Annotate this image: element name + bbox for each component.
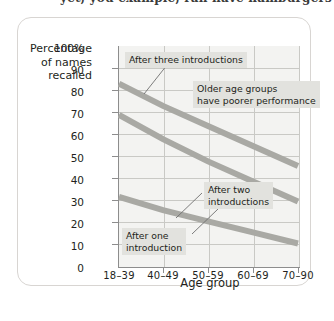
annotation-after-one-line-1: After one (126, 230, 182, 242)
y-tick-label-80: 80 (40, 86, 84, 98)
y-tick-label-90: 90 (40, 64, 84, 76)
y-tick-label-10: 10 (40, 240, 84, 252)
leader-line-after-one (192, 209, 218, 234)
caption-text: yet, you example, ran have hamburgers (60, 0, 332, 5)
annotation-older-line-1: Older age groups (197, 83, 316, 95)
leader-line-after-three (144, 65, 167, 94)
y-tick-label-50: 50 (40, 152, 84, 164)
annotation-after-one-introduction: After one introduction (122, 228, 186, 255)
y-tick-label-20: 20 (40, 218, 84, 230)
leader-line-after-two (176, 193, 202, 218)
y-tick-label-60: 60 (40, 130, 84, 142)
y-tick-label-0: 0 (40, 262, 84, 274)
annotation-after-three-introductions: After three introductions (125, 52, 247, 68)
annotation-after-three-text: After three introductions (129, 54, 243, 65)
clipped-caption: yet, you example, ran have hamburgers (0, 0, 334, 14)
annotation-after-one-line-2: introduction (126, 242, 182, 254)
annotation-after-two-introductions: After two introductions (204, 182, 273, 209)
annotation-older-line-2: have poorer performance (197, 95, 316, 107)
y-tick-label-100: 100% (40, 42, 84, 54)
annotation-after-two-line-1: After two (208, 184, 269, 196)
x-axis-title: Age group (118, 276, 302, 290)
y-tick-label-40: 40 (40, 174, 84, 186)
y-tick-label-30: 30 (40, 196, 84, 208)
y-tick-label-70: 70 (40, 108, 84, 120)
annotation-older-age-groups: Older age groups have poorer performance (193, 81, 320, 108)
annotation-after-two-line-2: introductions (208, 196, 269, 208)
figure-page: yet, you example, ran have hamburgers Pe… (0, 0, 334, 321)
